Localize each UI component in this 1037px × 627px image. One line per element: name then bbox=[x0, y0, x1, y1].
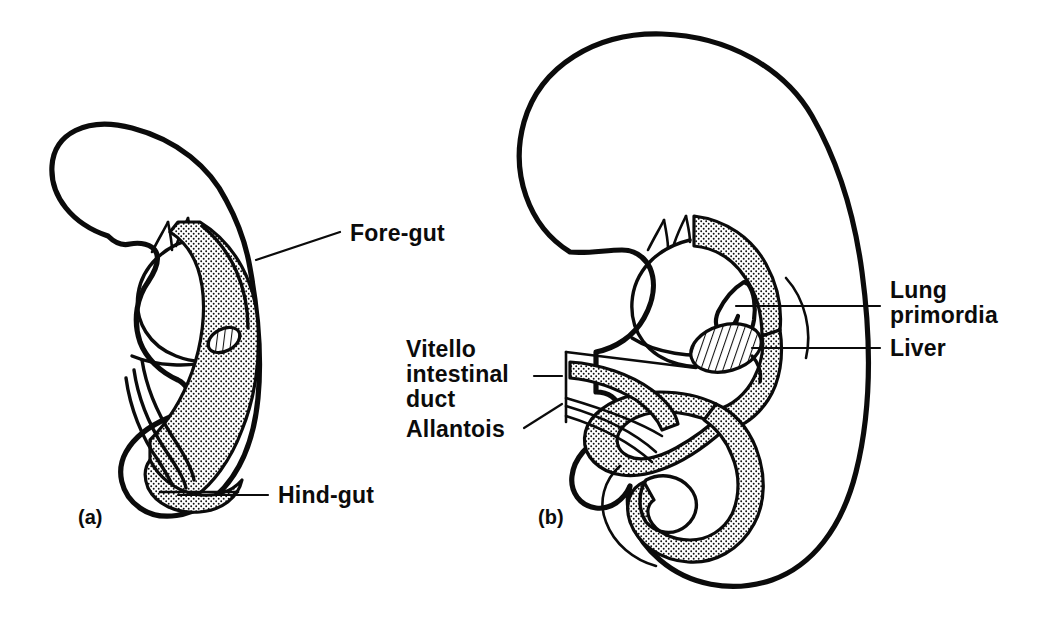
label-lung-primordia-line1: Lung bbox=[890, 277, 947, 303]
figure-canvas: Fore-gut Hind-gut (a) bbox=[0, 0, 1037, 627]
label-vitello-line3: duct bbox=[406, 386, 455, 412]
embryology-figure: Fore-gut Hind-gut (a) bbox=[0, 0, 1037, 627]
label-fore-gut: Fore-gut bbox=[350, 220, 445, 246]
label-liver: Liver bbox=[890, 335, 946, 361]
panel-tag-b: (b) bbox=[538, 506, 564, 528]
label-hind-gut: Hind-gut bbox=[278, 482, 374, 508]
label-vitello-line2: intestinal bbox=[406, 361, 509, 387]
label-allantois: Allantois bbox=[406, 416, 505, 442]
label-lung-primordia-line2: primordia bbox=[890, 302, 998, 328]
panel-tag-a: (a) bbox=[78, 506, 102, 528]
label-vitello-line1: Vitello bbox=[406, 336, 476, 362]
